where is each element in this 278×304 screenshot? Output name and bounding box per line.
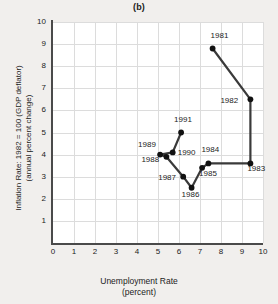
x-axis-label-main: Unemployment Rate xyxy=(100,276,177,286)
data-point-marker xyxy=(178,130,184,136)
data-point-label: 1983 xyxy=(247,164,265,173)
data-point-label: 1987 xyxy=(158,173,176,182)
data-point-label: 1986 xyxy=(182,190,200,199)
chart-container: (b) 12345678910 012345678910 19811982198… xyxy=(0,0,278,304)
data-series-layer xyxy=(0,0,278,304)
data-point-label: 1981 xyxy=(211,31,229,40)
data-point-label: 1989 xyxy=(138,140,156,149)
x-axis-label-sub: (percent) xyxy=(122,287,156,297)
data-point-marker xyxy=(210,46,216,52)
data-point-label: 1982 xyxy=(220,96,238,105)
x-axis-label: Unemployment Rate (percent) xyxy=(0,276,278,298)
data-point-label: 1991 xyxy=(174,115,192,124)
data-point-marker xyxy=(164,154,170,160)
data-point-label: 1985 xyxy=(199,169,217,178)
data-point-marker xyxy=(180,174,186,180)
data-point-label: 1990 xyxy=(178,148,196,157)
y-axis-label: Inflation Rate: 1982 = 100 (GDP deflator… xyxy=(14,23,34,253)
data-point-label: 1988 xyxy=(141,155,159,164)
y-axis-label-main: Inflation Rate: 1982 = 100 (GDP deflator… xyxy=(14,65,23,211)
y-axis-label-sub: (annual percent change) xyxy=(24,95,33,182)
data-point-marker xyxy=(206,161,212,167)
data-point-marker xyxy=(248,96,254,102)
data-point-label: 1984 xyxy=(201,145,219,154)
data-point-marker xyxy=(170,149,176,155)
